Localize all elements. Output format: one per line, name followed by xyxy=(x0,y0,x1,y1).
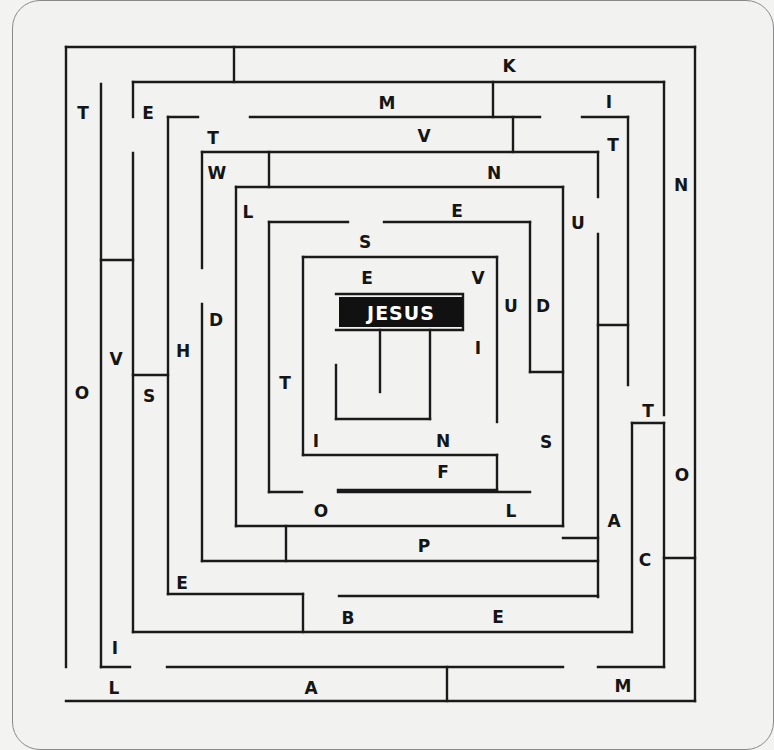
maze-letter: I xyxy=(606,92,612,112)
maze-letter: S xyxy=(359,232,371,252)
maze-letter: V xyxy=(417,126,431,146)
maze-letter: V xyxy=(471,268,485,288)
maze-letter: S xyxy=(540,432,552,452)
goal-jesus[interactable]: JESUS xyxy=(336,294,463,330)
maze-letter: C xyxy=(639,550,651,570)
maze-letter: V xyxy=(109,349,123,369)
maze-letter: K xyxy=(502,56,516,76)
maze-letter: T xyxy=(279,373,291,393)
maze-letter: T xyxy=(77,103,89,123)
maze-letter: M xyxy=(379,93,396,113)
maze-letter: I xyxy=(313,431,319,451)
maze-letter: O xyxy=(675,465,689,485)
maze-walls xyxy=(66,47,695,701)
maze-letter: A xyxy=(304,678,318,698)
maze-letter: A xyxy=(607,511,621,531)
maze-letter: L xyxy=(109,678,120,698)
maze-letter: N xyxy=(674,175,688,195)
maze-letter: B xyxy=(342,608,355,628)
maze-letter: L xyxy=(506,501,517,521)
maze-letter: S xyxy=(143,386,155,406)
maze-letter: I xyxy=(475,338,481,358)
maze-letter: L xyxy=(243,202,254,222)
maze-letter: E xyxy=(361,268,373,288)
maze-letter: N xyxy=(487,163,501,183)
maze-letter: O xyxy=(75,383,89,403)
maze-letter: D xyxy=(536,296,550,316)
maze-letter: N xyxy=(436,431,450,451)
maze-letter: W xyxy=(208,163,227,183)
maze-letter: O xyxy=(314,501,328,521)
maze-letter: E xyxy=(451,201,463,221)
maze-letter: H xyxy=(176,341,190,361)
maze-letter: T xyxy=(607,135,619,155)
maze-letter: E xyxy=(492,607,504,627)
maze-letter: E xyxy=(142,103,154,123)
maze-letter: T xyxy=(207,128,219,148)
maze-letter: E xyxy=(176,573,188,593)
goal-label: JESUS xyxy=(365,302,435,324)
maze-letter: U xyxy=(504,296,518,316)
maze-letter: D xyxy=(209,310,223,330)
maze-letter: U xyxy=(571,213,585,233)
maze-letter: P xyxy=(418,536,430,556)
maze-letter: T xyxy=(642,401,654,421)
maze-letter: F xyxy=(437,462,449,482)
maze-letter: I xyxy=(112,638,118,658)
maze-letter: M xyxy=(615,676,632,696)
